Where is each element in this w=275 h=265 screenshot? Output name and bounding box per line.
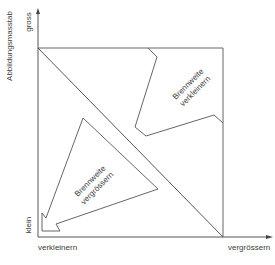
diagram-canvas — [0, 0, 275, 265]
y-axis-bottom-label: klein — [24, 217, 33, 233]
y-axis-arrow-icon — [36, 8, 40, 14]
y-axis-top-label: gross — [24, 12, 33, 32]
x-axis-right-label: vergrössern — [228, 243, 270, 252]
y-axis-title: Abbildungsmasstab — [5, 11, 14, 81]
x-axis-left-label: verkleinern — [38, 243, 77, 252]
x-axis-arrow-icon — [266, 235, 273, 239]
